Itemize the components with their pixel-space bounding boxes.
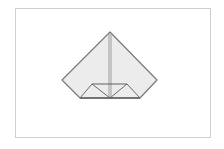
origami-diagram [0,0,224,149]
paper-outline [62,32,157,98]
